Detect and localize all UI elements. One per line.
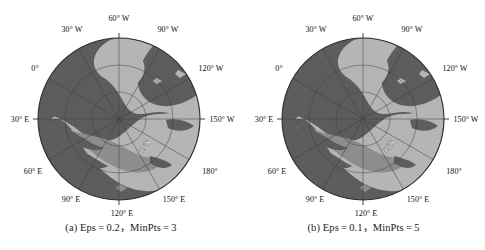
lon-label-30e: 30° E	[11, 115, 29, 124]
lon-label-150w: 150° W	[454, 115, 479, 124]
lon-label-60e: 60° E	[268, 167, 286, 176]
island-dark	[61, 61, 79, 74]
lon-label-90w: 90° W	[402, 25, 423, 34]
polar-map-b: 60° W 30° W 0° 30° E 60° E 90° E 120° E …	[242, 0, 484, 218]
lon-label-120e: 120° E	[355, 209, 377, 218]
lon-label-30e: 30° E	[255, 115, 273, 124]
lon-label-180: 180°	[202, 167, 217, 176]
lon-label-150w: 150° W	[210, 115, 235, 124]
lon-label-150e: 150° E	[163, 195, 185, 204]
island-dark	[305, 61, 323, 74]
island-dark-2	[301, 72, 311, 78]
lon-label-150e: 150° E	[407, 195, 429, 204]
lon-label-0: 0°	[31, 64, 38, 73]
lon-label-0: 0°	[275, 64, 282, 73]
lon-label-180: 180°	[446, 167, 461, 176]
lon-label-90e: 90° E	[306, 195, 324, 204]
lon-label-60w: 60° W	[353, 14, 374, 23]
polar-map-a-svg: 60° W 30° W 0° 30° E 60° E 90° E 120° E …	[0, 0, 242, 218]
caption-a: (a) Eps = 0.2，MinPts = 3	[0, 219, 242, 234]
lon-label-90w: 90° W	[158, 25, 179, 34]
lon-label-120e: 120° E	[111, 209, 133, 218]
lon-label-60w: 60° W	[109, 14, 130, 23]
lon-label-30w: 30° W	[62, 25, 83, 34]
lon-label-120w: 120° W	[443, 64, 468, 73]
panel-b: 60° W 30° W 0° 30° E 60° E 90° E 120° E …	[242, 0, 485, 250]
polar-map-a: 60° W 30° W 0° 30° E 60° E 90° E 120° E …	[0, 0, 242, 218]
lon-label-90e: 90° E	[62, 195, 80, 204]
polar-map-b-svg: 60° W 30° W 0° 30° E 60° E 90° E 120° E …	[242, 0, 485, 218]
lon-label-30w: 30° W	[306, 25, 327, 34]
lon-label-60e: 60° E	[24, 167, 42, 176]
island-dark-2	[57, 72, 67, 78]
caption-b: (b) Eps = 0.1，MinPts = 5	[242, 219, 485, 234]
panel-a: 60° W 30° W 0° 30° E 60° E 90° E 120° E …	[0, 0, 242, 250]
figure-two-polar-maps: 60° W 30° W 0° 30° E 60° E 90° E 120° E …	[0, 0, 485, 250]
lon-label-120w: 120° W	[199, 64, 224, 73]
